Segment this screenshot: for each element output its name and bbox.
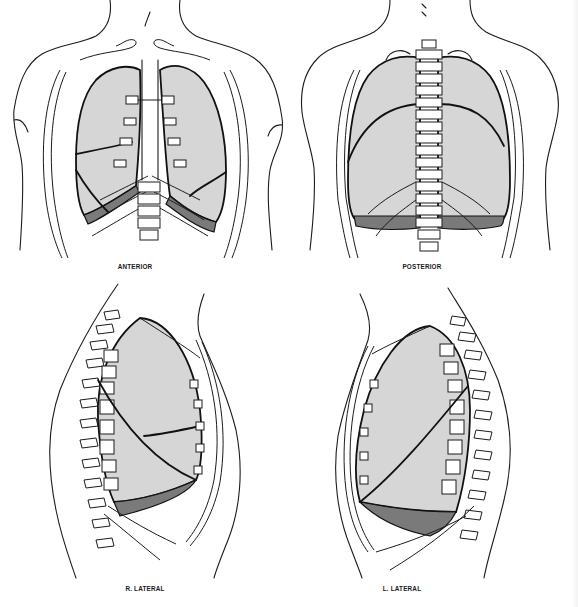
left-posterior-recess (354, 216, 420, 229)
panel-label-posterior: POSTERIOR (397, 262, 448, 271)
anterior-view: ANTERIOR (0, 0, 290, 260)
l-lateral-illustration (290, 280, 578, 580)
page-edge-shadow (572, 0, 578, 607)
r-lateral-view: R. LATERAL (0, 280, 290, 600)
panel-label-l-lateral: L. LATERAL (377, 584, 428, 593)
left-lung-posterior (348, 57, 420, 218)
posterior-view: POSTERIOR (290, 0, 578, 260)
panel-label-r-lateral: R. LATERAL (120, 584, 171, 593)
anterior-illustration (0, 0, 290, 260)
l-lateral-view: L. LATERAL (290, 280, 578, 600)
right-posterior-recess (438, 216, 504, 229)
panel-label-anterior: ANTERIOR (110, 262, 161, 271)
posterior-illustration (290, 0, 578, 260)
r-lateral-illustration (0, 280, 290, 580)
